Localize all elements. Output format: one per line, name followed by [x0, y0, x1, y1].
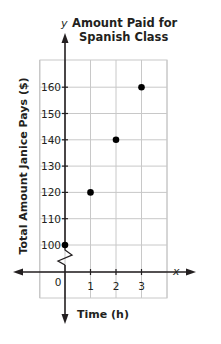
y-tick-label: 110	[41, 213, 61, 225]
chart-title-line-1: Amount Paid for	[72, 16, 178, 30]
data-point	[62, 242, 69, 249]
chart-title: y Amount Paid for Spanish Class	[60, 16, 178, 44]
x-axis-arrow-right	[186, 269, 196, 276]
y-tick-label: 160	[41, 81, 61, 93]
x-axis-arrow-left	[13, 269, 23, 276]
x-tick-label: 1	[87, 280, 94, 292]
scatter-chart: y Amount Paid for Spanish Class 10011012…	[0, 0, 221, 344]
chart-title-line-2: Spanish Class	[79, 30, 168, 44]
y-axis-letter: y	[60, 17, 68, 30]
y-tick-label: 140	[41, 134, 61, 146]
x-tick-label: 2	[113, 280, 120, 292]
data-point	[113, 137, 120, 144]
y-axis-arrow-up	[62, 33, 69, 43]
y-tick-label: 100	[41, 239, 61, 251]
y-tick-label: 120	[41, 186, 61, 198]
x-tick-label: 3	[138, 280, 145, 292]
data-point	[87, 189, 94, 196]
data-point	[138, 84, 145, 91]
y-axis-arrow-down	[62, 314, 69, 324]
x-tick-label: 0	[55, 276, 62, 288]
y-tick-label: 130	[41, 160, 61, 172]
tick-labels: 1001101201301401501600123	[41, 81, 145, 292]
x-axis-title: Time (h)	[77, 308, 129, 321]
x-axis-letter: x	[172, 265, 180, 278]
y-tick-label: 150	[41, 108, 61, 120]
y-axis-title: Total Amount Janice Pays ($)	[17, 77, 30, 254]
grid	[40, 60, 168, 298]
